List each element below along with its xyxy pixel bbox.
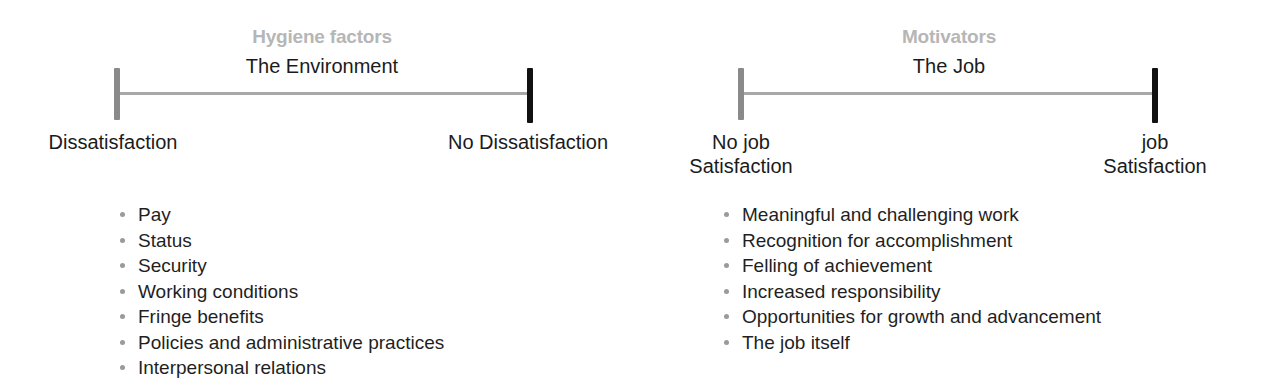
hygiene-factors-panel: Hygiene factors The Environment Dissatis…	[0, 0, 640, 382]
motivators-panel: Motivators The Job No job Satisfaction j…	[631, 0, 1271, 382]
motivators-right-endpoint-label-line1: job	[1142, 131, 1169, 153]
bullet-icon	[120, 212, 125, 217]
motivators-left-endpoint-label-line1: No job	[712, 131, 770, 153]
list-item-label: Meaningful and challenging work	[742, 204, 1019, 225]
bullet-icon	[724, 340, 729, 345]
hygiene-domain-heading: The Environment	[246, 55, 398, 78]
list-item: Increased responsibility	[724, 279, 1101, 305]
list-item: Felling of achievement	[724, 253, 1101, 279]
list-item-label: Pay	[138, 204, 171, 225]
bullet-icon	[724, 289, 729, 294]
list-item-label: Interpersonal relations	[138, 357, 326, 378]
motivators-right-endpoint-label-line2: Satisfaction	[1103, 154, 1206, 178]
hygiene-left-endpoint-marker	[114, 68, 120, 120]
bullet-icon	[120, 365, 125, 370]
list-item: Recognition for accomplishment	[724, 228, 1101, 254]
list-item-label: Increased responsibility	[742, 281, 941, 302]
hygiene-factor-list: Pay Status Security Working conditions F…	[120, 202, 444, 381]
motivators-continuum-line	[741, 92, 1153, 95]
list-item: Interpersonal relations	[120, 355, 444, 381]
list-item: Pay	[120, 202, 444, 228]
list-item: Status	[120, 228, 444, 254]
hygiene-left-endpoint-label: Dissatisfaction	[49, 130, 178, 154]
list-item-label: Working conditions	[138, 281, 298, 302]
list-item-label: The job itself	[742, 332, 850, 353]
bullet-icon	[724, 263, 729, 268]
list-item: The job itself	[724, 330, 1101, 356]
hygiene-continuum-line	[117, 92, 531, 95]
hygiene-right-endpoint-label-line1: No Dissatisfaction	[448, 131, 608, 153]
motivators-domain-heading: The Job	[913, 55, 985, 78]
bullet-icon	[120, 289, 125, 294]
list-item: Opportunities for growth and advancement	[724, 304, 1101, 330]
bullet-icon	[724, 314, 729, 319]
motivators-left-endpoint-label-line2: Satisfaction	[689, 154, 792, 178]
hygiene-right-endpoint-label: No Dissatisfaction	[448, 130, 608, 154]
bullet-icon	[120, 238, 125, 243]
list-item: Fringe benefits	[120, 304, 444, 330]
bullet-icon	[120, 314, 125, 319]
list-item: Working conditions	[120, 279, 444, 305]
list-item: Policies and administrative practices	[120, 330, 444, 356]
motivators-right-endpoint-marker	[1152, 68, 1158, 123]
motivators-category-heading: Motivators	[902, 26, 996, 48]
hygiene-right-endpoint-marker	[527, 68, 533, 123]
list-item-label: Recognition for accomplishment	[742, 230, 1012, 251]
list-item: Security	[120, 253, 444, 279]
list-item-label: Policies and administrative practices	[138, 332, 444, 353]
bullet-icon	[120, 340, 125, 345]
motivators-left-endpoint-label: No job Satisfaction	[689, 130, 792, 178]
list-item-label: Opportunities for growth and advancement	[742, 306, 1101, 327]
list-item-label: Security	[138, 255, 207, 276]
bullet-icon	[724, 212, 729, 217]
motivators-right-endpoint-label: job Satisfaction	[1103, 130, 1206, 178]
bullet-icon	[724, 238, 729, 243]
list-item-label: Status	[138, 230, 192, 251]
hygiene-category-heading: Hygiene factors	[252, 26, 392, 48]
list-item-label: Felling of achievement	[742, 255, 932, 276]
list-item: Meaningful and challenging work	[724, 202, 1101, 228]
motivators-left-endpoint-marker	[738, 68, 744, 120]
list-item-label: Fringe benefits	[138, 306, 264, 327]
motivators-factor-list: Meaningful and challenging work Recognit…	[724, 202, 1101, 355]
bullet-icon	[120, 263, 125, 268]
hygiene-left-endpoint-label-line1: Dissatisfaction	[49, 131, 178, 153]
